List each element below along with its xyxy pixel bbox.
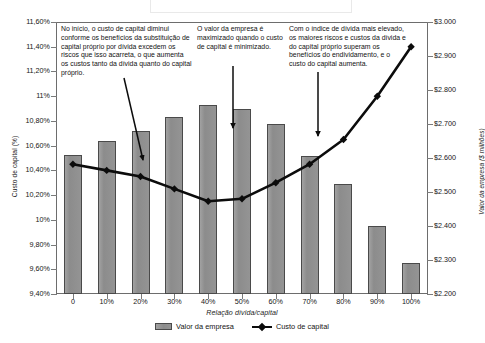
y-axis-right-tick-label: $2.500 bbox=[434, 187, 482, 196]
y-axis-left-tick-label: 9,40% bbox=[2, 289, 50, 298]
y-axis-left-tick-label: 10,60% bbox=[2, 141, 50, 150]
y-axis-left-tick bbox=[51, 220, 57, 221]
y-axis-left-tick-label: 10% bbox=[2, 215, 50, 224]
y-axis-left-tick bbox=[51, 146, 57, 147]
x-axis-tick bbox=[107, 294, 108, 299]
y-axis-right-tick-label: $2.700 bbox=[434, 119, 482, 128]
bar-firm-value bbox=[334, 184, 352, 295]
x-axis-tick bbox=[411, 294, 412, 299]
y-axis-right-tick bbox=[427, 260, 433, 261]
y-axis-left-tick bbox=[51, 245, 57, 246]
y-axis-right-tick-label: $2.900 bbox=[434, 51, 482, 60]
bar-firm-value bbox=[301, 156, 319, 294]
y-axis-left-tick-label: 10,40% bbox=[2, 165, 50, 174]
y-axis-left-tick bbox=[51, 96, 57, 97]
y-axis-left-tick-label: 11% bbox=[2, 91, 50, 100]
bar-firm-value bbox=[267, 124, 285, 294]
y-axis-left-tick-label: 11,40% bbox=[2, 42, 50, 51]
x-axis-tick bbox=[242, 294, 243, 299]
y-axis-left-tick bbox=[51, 195, 57, 196]
y-axis-right-tick-label: $2.200 bbox=[434, 289, 482, 298]
bar-firm-value bbox=[132, 131, 150, 294]
y-axis-right-tick bbox=[427, 192, 433, 193]
y-axis-right-tick bbox=[427, 294, 433, 295]
x-axis-tick bbox=[208, 294, 209, 299]
x-axis-tick bbox=[73, 294, 74, 299]
y-axis-right-tick bbox=[427, 158, 433, 159]
legend-item-cost-of-capital: Custo de capital bbox=[252, 322, 329, 331]
legend-label-cost-of-capital: Custo de capital bbox=[276, 322, 329, 331]
y-axis-left-tick bbox=[51, 47, 57, 48]
x-axis-tick bbox=[174, 294, 175, 299]
annotation-value-maximized: O valor da empresa é maximizado quando o… bbox=[197, 25, 283, 51]
chart-legend: Valor da empresa Custo de capital bbox=[0, 322, 484, 331]
bar-firm-value bbox=[165, 117, 183, 294]
annotation-initial-decline: No início, o custo de capital diminui co… bbox=[61, 25, 192, 78]
y-axis-left-tick bbox=[51, 269, 57, 270]
annotation-high-leverage: Com o índice de dívida mais elevado, os … bbox=[289, 25, 407, 69]
y-axis-left-tick bbox=[51, 294, 57, 295]
y-axis-left-tick bbox=[51, 121, 57, 122]
x-axis-title: Relação dívida/capital bbox=[0, 309, 484, 317]
x-axis-tick bbox=[343, 294, 344, 299]
y-axis-left-tick-label: 10,80% bbox=[2, 116, 50, 125]
x-axis-tick bbox=[141, 294, 142, 299]
line-swatch-icon bbox=[252, 323, 272, 330]
y-axis-right-tick bbox=[427, 56, 433, 57]
bar-firm-value bbox=[98, 141, 116, 294]
y-axis-left-tick-label: 9,80% bbox=[2, 240, 50, 249]
y-axis-left-tick-label: 9,60% bbox=[2, 264, 50, 273]
bar-swatch-icon bbox=[155, 323, 172, 330]
legend-label-firm-value: Valor da empresa bbox=[176, 322, 234, 331]
y-axis-right-tick-label: $2.600 bbox=[434, 153, 482, 162]
x-axis-tick bbox=[310, 294, 311, 299]
y-axis-left-tick bbox=[51, 170, 57, 171]
y-axis-right-tick-label: $3.000 bbox=[434, 17, 482, 26]
y-axis-right-tick bbox=[427, 90, 433, 91]
y-axis-right-tick-label: $2.800 bbox=[434, 85, 482, 94]
legend-item-firm-value: Valor da empresa bbox=[155, 322, 234, 331]
x-axis-tick bbox=[276, 294, 277, 299]
y-axis-left-tick-label: 11,60% bbox=[2, 17, 50, 26]
y-axis-right-tick bbox=[427, 226, 433, 227]
x-axis-tick bbox=[377, 294, 378, 299]
bar-firm-value bbox=[64, 155, 82, 294]
y-axis-right-tick-label: $2.300 bbox=[434, 255, 482, 264]
scan-artifact bbox=[150, 0, 352, 13]
y-axis-left-tick bbox=[51, 22, 57, 23]
y-axis-left-tick-label: 11,20% bbox=[2, 66, 50, 75]
y-axis-right-tick bbox=[427, 22, 433, 23]
y-axis-left-tick-label: 10,20% bbox=[2, 190, 50, 199]
bar-firm-value bbox=[199, 105, 217, 294]
bar-firm-value bbox=[368, 226, 386, 294]
bar-firm-value bbox=[233, 109, 251, 294]
bar-firm-value bbox=[402, 263, 420, 294]
y-axis-right-tick bbox=[427, 124, 433, 125]
y-axis-left-tick bbox=[51, 71, 57, 72]
y-axis-right-tick-label: $2.400 bbox=[434, 221, 482, 230]
